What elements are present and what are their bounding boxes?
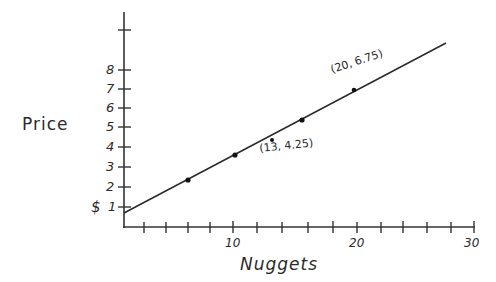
- x-axis-title: Nuggets: [240, 254, 318, 274]
- y-axis-title: Price: [22, 114, 68, 134]
- y-tick-label: 4: [106, 139, 114, 154]
- y-tick-label: 1: [108, 199, 116, 214]
- x-tick-label: 30: [464, 236, 479, 250]
- chart-canvas: [0, 0, 496, 282]
- data-point: [232, 152, 237, 157]
- price-line: [124, 43, 446, 213]
- data-point: [299, 117, 304, 122]
- dollar-unit-label: $: [91, 198, 101, 216]
- x-tick-label: 20: [349, 236, 364, 250]
- data-point: [185, 177, 190, 182]
- x-tick-label: 10: [225, 236, 240, 250]
- y-tick-label: 7: [106, 81, 114, 96]
- y-tick-label: 5: [106, 119, 114, 134]
- y-tick-label: 8: [106, 62, 114, 77]
- data-point: [352, 88, 357, 93]
- y-tick-label: 2: [106, 179, 114, 194]
- y-tick-label: 6: [106, 100, 114, 115]
- y-tick-label: 3: [106, 159, 114, 174]
